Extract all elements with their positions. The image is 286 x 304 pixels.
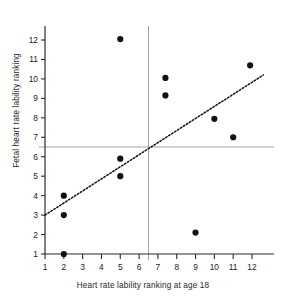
data-point bbox=[117, 173, 123, 179]
x-axis-tick-label: 5 bbox=[118, 262, 123, 272]
x-axis-tick-label: 3 bbox=[80, 262, 85, 272]
data-point bbox=[61, 251, 67, 257]
data-point bbox=[230, 134, 236, 140]
plot-canvas: 123456789101112123456789101112 bbox=[0, 0, 286, 304]
y-axis-tick-label: 3 bbox=[33, 210, 38, 220]
data-point bbox=[247, 62, 253, 68]
data-point bbox=[162, 75, 168, 81]
data-point bbox=[61, 212, 67, 218]
scatter-plot-figure: 123456789101112123456789101112 Fetal hea… bbox=[0, 0, 286, 304]
y-axis-tick-label: 2 bbox=[33, 230, 38, 240]
x-axis-tick-label: 10 bbox=[210, 262, 220, 272]
y-axis-tick-label: 5 bbox=[33, 171, 38, 181]
y-axis-tick-label: 12 bbox=[29, 35, 39, 45]
x-axis-tick-label: 4 bbox=[99, 262, 104, 272]
data-point bbox=[211, 116, 217, 122]
y-axis-tick-label: 7 bbox=[33, 132, 38, 142]
x-axis-title: Heart rate lability ranking at age 18 bbox=[0, 281, 286, 290]
regression-fit-line bbox=[45, 75, 263, 215]
x-axis-tick-label: 12 bbox=[247, 262, 257, 272]
plot-geometry: 123456789101112123456789101112 bbox=[29, 26, 274, 272]
x-axis-tick-label: 1 bbox=[43, 262, 48, 272]
data-point bbox=[192, 230, 198, 236]
data-point bbox=[117, 36, 123, 42]
y-axis-tick-label: 11 bbox=[29, 54, 38, 64]
x-axis-tick-label: 11 bbox=[229, 262, 238, 272]
y-axis-tick-label: 10 bbox=[29, 74, 39, 84]
x-axis-tick-label: 6 bbox=[137, 262, 142, 272]
y-axis-tick-label: 1 bbox=[33, 249, 38, 259]
x-axis-tick-label: 2 bbox=[61, 262, 66, 272]
x-axis-tick-label: 9 bbox=[193, 262, 198, 272]
data-point bbox=[117, 156, 123, 162]
y-axis-tick-label: 9 bbox=[33, 93, 38, 103]
y-axis-tick-label: 8 bbox=[33, 113, 38, 123]
data-point bbox=[61, 193, 67, 199]
y-axis-tick-label: 6 bbox=[33, 152, 38, 162]
x-axis-tick-label: 8 bbox=[174, 262, 179, 272]
x-axis-tick-label: 7 bbox=[156, 262, 161, 272]
y-axis-tick-label: 4 bbox=[33, 191, 38, 201]
y-axis-title: Fetal heart rate lability ranking bbox=[12, 16, 21, 206]
data-point bbox=[162, 92, 168, 98]
